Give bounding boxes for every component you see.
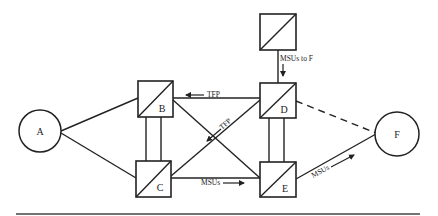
link-d-e	[269, 118, 284, 162]
node-c: C	[136, 161, 171, 197]
link-a-b	[61, 98, 138, 131]
node-top	[260, 14, 296, 50]
link-d-f	[296, 101, 376, 133]
annotation-msus-to-f-label: MSUs to F	[280, 54, 313, 63]
annotation-tfp-diag: TFP	[207, 116, 233, 141]
node-f: F	[375, 112, 419, 156]
node-e: E	[260, 162, 296, 197]
link-b-c	[146, 117, 161, 161]
node-a: A	[19, 110, 61, 152]
annotation-msus-to-f: MSUs to F	[280, 54, 313, 76]
link-a-c	[61, 133, 136, 178]
node-b-label: B	[159, 103, 166, 114]
node-f-label: F	[394, 129, 400, 140]
annotation-msus-bottom-label: MSUs	[201, 178, 220, 187]
node-b: B	[138, 81, 173, 117]
node-a-label: A	[36, 126, 44, 137]
node-e-label: E	[282, 183, 288, 194]
link-c-d	[171, 100, 260, 176]
annotation-tfp-diag-label: TFP	[217, 116, 233, 131]
node-c-label: C	[157, 182, 164, 193]
annotation-tfp-top-label: TFP	[207, 90, 220, 99]
network-diagram: A F B C D E TFP TFP MSUs	[0, 0, 438, 216]
node-d-label: D	[280, 104, 287, 115]
annotation-msus-bottom: MSUs	[201, 178, 244, 187]
link-e-f	[296, 134, 376, 179]
node-d: D	[260, 83, 296, 118]
annotation-msus-ef-label: MSUs	[310, 163, 331, 180]
